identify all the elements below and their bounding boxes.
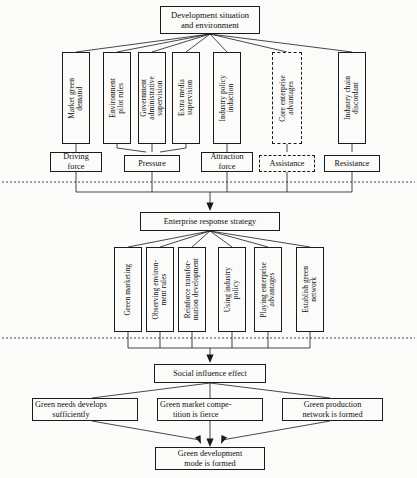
node-label: Green market compe- tition is fierce [160,400,231,419]
node-label: Green marketing [124,264,132,315]
node-resistance[interactable]: Resistance [324,155,380,172]
node-social-influence-effect[interactable]: Social influence effect [154,364,266,383]
node-label: Playing enterprise advantages [260,262,276,317]
node-observing-environment-rules[interactable]: Observing environ- ment rules [146,247,174,332]
diagram-canvas: Development situation and environment Ma… [0,0,417,478]
node-label: Green needs develops sufficiently [35,400,107,419]
node-core-enterprise-advantages[interactable]: Core enterprise advantages [272,52,302,144]
node-market-green-demand[interactable]: Market green demand [62,52,90,144]
node-green-marketing[interactable]: Green marketing [114,247,142,332]
node-label: Attraction force [210,152,243,171]
node-label: Environment pilot rules [109,78,125,118]
node-pressure[interactable]: Pressure [124,155,180,172]
node-attraction-force[interactable]: Attraction force [201,152,253,172]
node-green-production-network-is-formed[interactable]: Green production network is formed [282,398,383,421]
node-extra-media-supervision[interactable]: Extra media supervision [172,52,200,144]
node-establish-green-network[interactable]: Establish green network [296,247,324,332]
node-enterprise-response-strategy[interactable]: Enterprise response strategy [140,212,280,231]
node-label: Core enterprise advantages [279,75,295,122]
node-reinforce-transformation-development[interactable]: Reinforce transfor- mation development [178,247,206,332]
node-driving-force[interactable]: Driving force [50,152,102,172]
node-label: Establish green network [302,266,318,313]
node-green-market-competition-is-fierce[interactable]: Green market compe- tition is fierce [157,398,263,421]
node-green-development-mode-is-formed[interactable]: Green development mode is formed [155,447,265,470]
node-label: Social influence effect [173,369,247,379]
node-environment-pilot-rules[interactable]: Environment pilot rules [103,52,131,144]
node-industry-policy-induction[interactable]: Industry policy induction [213,52,241,144]
node-label: Green production network is formed [302,400,362,419]
node-playing-enterprise-advantages[interactable]: Playing enterprise advantages [254,247,282,332]
node-green-needs-develops-sufficiently[interactable]: Green needs develops sufficiently [32,398,138,421]
node-industry-chain-discordant[interactable]: Industry chain discordant [338,52,366,144]
node-label: Observing environ- ment rules [152,260,168,319]
node-label: Pressure [138,159,166,169]
node-label: Development situation and environment [171,10,249,31]
node-development-situation[interactable]: Development situation and environment [160,6,260,34]
node-label: Resistance [334,159,369,169]
node-label: Government administrative supervision [140,76,163,120]
node-assistance[interactable]: Assistance [259,155,315,172]
node-label: Industry policy induction [219,75,235,121]
node-using-industry-policy[interactable]: Using industry policy [218,247,246,332]
node-label: Green development mode is formed [178,449,242,468]
node-label: Industry chain discordant [344,76,360,120]
node-label: Driving force [63,152,88,171]
node-label: Assistance [269,159,304,169]
node-label: Market green demand [68,78,84,119]
node-label: Using industry policy [224,267,240,312]
node-label: Reinforce transfor- mation development [184,258,200,320]
node-label: Extra media supervision [178,79,194,116]
node-government-administrative-supervision[interactable]: Government administrative supervision [138,52,166,144]
node-label: Enterprise response strategy [164,217,256,227]
